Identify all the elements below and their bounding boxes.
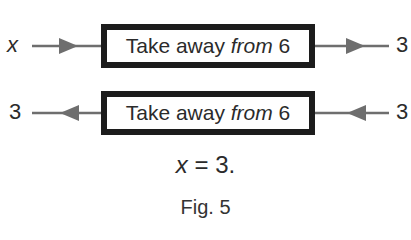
equation-value: 3.	[215, 151, 235, 178]
row1-output-arrow	[315, 38, 389, 54]
row1-input-label: x	[7, 34, 18, 56]
row2-output-arrow	[32, 105, 101, 121]
row2-function-box: Take away from 6	[101, 91, 315, 135]
row1-output-label: 3	[396, 34, 408, 56]
row1-input-arrow	[32, 38, 101, 54]
row2-box-emphasis: from	[231, 101, 273, 125]
solution-equation: x = 3.	[0, 151, 411, 179]
figure-caption: Fig. 5	[0, 196, 411, 219]
row1-function-box: Take away from 6	[101, 24, 315, 68]
row1-box-suffix: 6	[273, 34, 291, 58]
row1-box-emphasis: from	[231, 34, 273, 58]
row1-box-prefix: Take away	[126, 34, 231, 58]
row2-box-prefix: Take away	[126, 101, 231, 125]
row2-output-label: 3	[9, 101, 21, 123]
row2-input-arrow	[315, 105, 389, 121]
row2-box-suffix: 6	[273, 101, 291, 125]
row2-input-label: 3	[396, 101, 408, 123]
equation-variable: x	[176, 151, 188, 178]
equation-operator: =	[194, 151, 208, 178]
